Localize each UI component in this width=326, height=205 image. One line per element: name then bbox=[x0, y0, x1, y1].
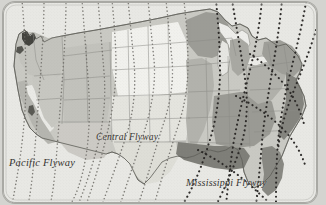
halftone-grain bbox=[3, 2, 317, 203]
flyway-map-graphic bbox=[0, 0, 326, 205]
flyway-label-mississippi: Mississippi Flyway bbox=[186, 177, 267, 188]
flyway-label-central: Central Flyway bbox=[96, 132, 158, 142]
flyway-map-figure: Pacific Flyway Central Flyway Mississipp… bbox=[0, 0, 326, 205]
map-contents bbox=[3, 0, 317, 205]
flyway-label-pacific: Pacific Flyway bbox=[9, 157, 75, 168]
